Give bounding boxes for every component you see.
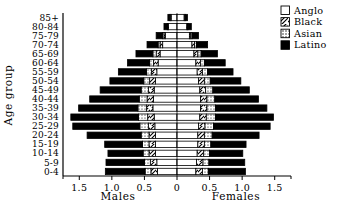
age-group-label-85+: 85+ [39,13,59,23]
bar-segment-anglo-males [171,14,177,20]
bar-segment-anglo-males [157,168,177,174]
bar-segment-anglo-females [177,69,197,75]
bar-segment-black-females [196,60,201,66]
bar-segment-latino-females [204,60,225,66]
bar-segment-asian-females [207,96,215,102]
age-group-label-10-14: 10-14 [32,148,59,158]
bar-segment-anglo-females [177,168,196,174]
bar-segment-asian-males [141,132,149,138]
bar-segment-anglo-males [158,60,177,66]
bar-segment-latino-males [136,51,153,57]
bar-segment-latino-males [168,14,170,20]
bar-segment-latino-females [215,96,259,102]
bar-segment-black-males [148,123,155,129]
age-group-label-35-39: 35-39 [32,103,59,113]
legend-swatch-latino-icon [281,41,290,50]
bar-segment-anglo-females [177,78,199,84]
bar-segment-anglo-females [177,141,198,147]
bar-segment-black-females [200,87,206,93]
bar-segment-anglo-males [153,105,177,111]
age-group-label-80-84: 80-84 [32,22,59,32]
age-group-label-55-59: 55-59 [32,67,59,77]
bar-segment-anglo-females [177,96,200,102]
bar-segment-anglo-males [154,87,177,93]
bar-segment-asian-females [202,168,208,174]
bar-segment-anglo-females [177,42,192,48]
bar-segment-anglo-males [156,132,178,138]
bar-segment-black-females [198,132,205,138]
legend-label-black: Black [294,16,322,27]
age-group-label-75-79: 75-79 [32,31,59,41]
bar-segment-anglo-females [177,32,189,38]
bar-segment-asian-males [142,141,149,147]
pyramid-row [106,159,245,165]
pyramid-row [71,114,274,120]
age-group-label-70-74: 70-74 [32,40,59,50]
legend-label-asian: Asian [293,28,322,39]
age-group-label-15-19: 15-19 [32,139,59,149]
legend-item-latino: Latino [281,39,326,50]
bar-segment-asian-females [207,105,215,111]
x-tick-label: 1.5 [267,182,283,193]
bar-segment-black-males [149,141,156,147]
bar-segment-anglo-males [165,32,177,38]
bar-segment-latino-males [127,60,149,66]
bar-segment-latino-females [208,69,233,75]
pyramid-row [110,78,241,84]
legend: AngloBlackAsianLatino [281,5,326,51]
pyramid-row [108,150,243,156]
bar-segment-anglo-females [177,14,184,20]
bar-segment-asian-females [204,132,212,138]
x-tick-label: 0.5 [136,182,152,193]
bar-segment-black-females [199,123,206,129]
bar-segment-anglo-females [177,60,196,66]
age-group-label-20-24: 20-24 [32,130,59,140]
bar-segment-black-males [152,69,157,75]
bar-segment-black-females [200,105,207,111]
bar-segment-asian-males [146,69,151,75]
age-group-label-65-69: 65-69 [32,49,59,59]
bar-segment-latino-females [210,150,243,156]
bar-segment-anglo-males [156,141,178,147]
x-axis-title-females: Females [212,190,260,202]
bar-segment-asian-females [204,78,210,84]
bar-segment-black-females [197,69,202,75]
pyramid-row [90,96,259,102]
age-group-label-50-54: 50-54 [32,76,59,86]
age-group-label-5-9: 5-9 [44,158,59,168]
bar-segment-anglo-females [177,132,198,138]
bar-segment-latino-males [100,87,141,93]
bar-segment-asian-females [198,51,201,57]
bar-segment-latino-females [201,51,217,57]
bar-segment-latino-males [71,114,139,120]
bar-segment-anglo-females [177,87,200,93]
legend-label-anglo: Anglo [293,5,323,16]
pyramid-row [79,105,267,111]
bar-segment-black-females [200,114,207,120]
legend-swatch-anglo-icon [281,6,290,15]
bar-segment-anglo-males [156,150,178,156]
bar-segment-anglo-females [177,105,200,111]
bar-segment-latino-females [213,123,270,129]
bar-segment-anglo-males [163,42,177,48]
bar-segment-latino-females [197,42,208,48]
x-tick-label: 0 [174,182,180,193]
bar-segment-anglo-males [160,51,177,57]
bar-segment-black-males [147,96,154,102]
age-group-label-45-49: 45-49 [32,85,59,95]
bar-segment-anglo-males [157,69,177,75]
plot-frame [63,13,291,176]
bar-segment-asian-females [206,87,213,93]
bar-segment-anglo-females [177,23,187,29]
bar-segment-latino-males [87,132,141,138]
bar-segment-latino-females [215,114,273,120]
bar-segment-latino-females [212,132,259,138]
bar-segment-latino-females [208,168,245,174]
legend-item-anglo: Anglo [281,5,323,16]
bar-segment-anglo-males [169,23,177,29]
bar-segment-asian-males [144,78,150,84]
bar-segment-black-males [151,168,158,174]
x-axis-title-males: Males [101,190,136,202]
bar-segment-anglo-males [155,123,177,129]
bar-segment-black-males [149,132,156,138]
